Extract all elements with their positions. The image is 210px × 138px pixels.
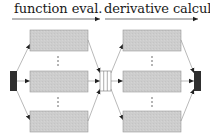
function-eval-block-3 [30,111,88,132]
source-block [10,71,17,91]
function-eval-block-1 [30,30,88,51]
function-eval-block-2 [30,71,88,92]
sink-block [194,71,201,91]
fanout-edges-right [111,44,123,120]
fanin-edges-left [88,40,100,121]
derivative-block-3 [123,111,181,132]
fanin-edges-right [181,40,194,121]
splitter-block [100,71,111,91]
fanout-edges-left [17,44,30,120]
derivative-block-2 [123,71,181,92]
pipeline-diagram [0,0,210,138]
derivative-block-1 [123,30,181,51]
